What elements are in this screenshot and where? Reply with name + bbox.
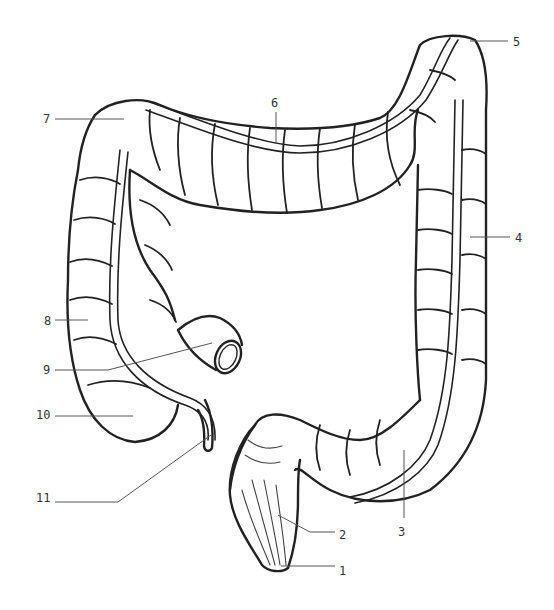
label-3: 3 xyxy=(398,526,405,538)
colon-diagram xyxy=(0,0,554,610)
rectum xyxy=(230,425,300,571)
leader-lines xyxy=(55,41,510,566)
leader-line-2 xyxy=(278,515,335,532)
label-7: 7 xyxy=(43,113,50,125)
label-2: 2 xyxy=(339,529,346,541)
label-10: 10 xyxy=(36,409,50,421)
label-6: 6 xyxy=(271,97,278,109)
leader-line-11 xyxy=(55,435,211,502)
label-5: 5 xyxy=(513,36,520,48)
label-9: 9 xyxy=(43,364,50,376)
sigmoid-colon xyxy=(230,400,420,490)
label-4: 4 xyxy=(515,232,522,244)
label-8: 8 xyxy=(44,315,51,327)
label-11: 11 xyxy=(36,492,50,504)
label-1: 1 xyxy=(339,565,346,577)
descending-colon xyxy=(415,165,420,400)
ascending-colon xyxy=(68,115,179,442)
